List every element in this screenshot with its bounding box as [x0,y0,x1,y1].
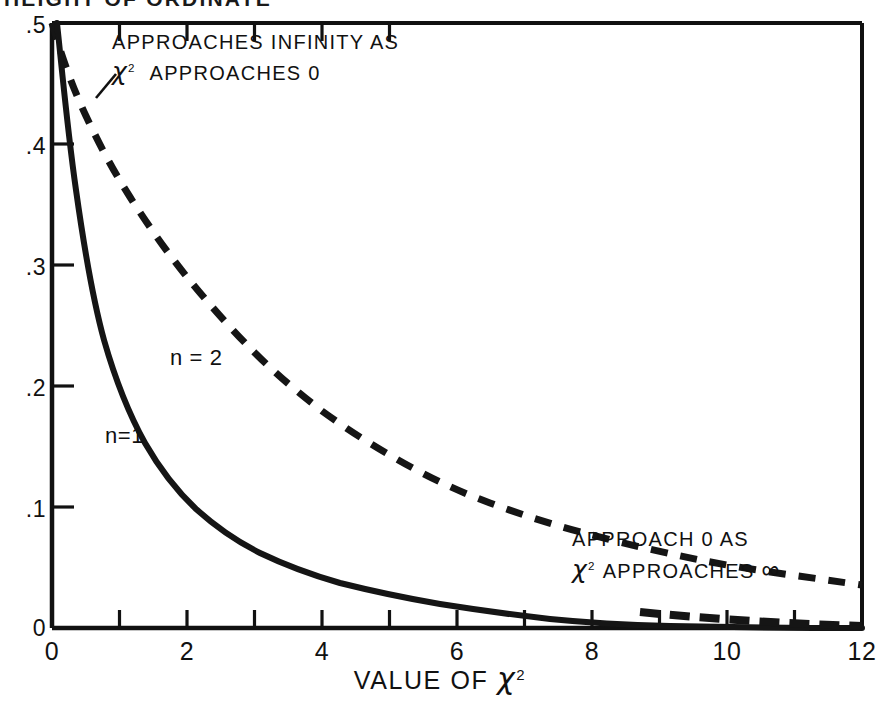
chi-exponent: 2 [128,61,136,74]
chi-exponent: 2 [516,666,526,683]
infinity-symbol: ∞ [762,555,781,583]
annotation-right-line2-text: APPROACHES [603,560,755,582]
annotation-left-line2-text: APPROACHES 0 [150,62,321,84]
curve-label-n1: n=1 [105,423,144,449]
chi-square-density-figure: HEIGHT OF ORDINATE [0,0,880,705]
curve-label-n2: n = 2 [170,345,223,371]
curve-n2 [52,23,862,585]
chi-symbol: χ [112,57,128,86]
annotation-left: APPROACHES INFINITY AS χ2 APPROACHES 0 [112,30,399,88]
annotation-right: APPROACH 0 AS χ2 APPROACHES ∞ [572,527,781,586]
x-axis-label: VALUE OF χ2 [0,661,880,696]
x-axis-label-text: VALUE OF [354,666,489,694]
plot-svg [0,0,880,705]
annotation-right-line2: χ2 APPROACHES ∞ [572,553,781,586]
y-tick-label-4: .1 [2,496,46,523]
y-tick-label-3: .2 [2,375,46,402]
y-tick-label-1: .4 [2,133,46,160]
y-tick-label-0: .5 [2,12,46,39]
y-axis-ticks [52,144,74,507]
chi-symbol: χ [497,661,516,696]
y-tick-label-2: .3 [2,254,46,281]
annotation-left-line2: χ2 APPROACHES 0 [112,56,399,88]
annotation-left-line1: APPROACHES INFINITY AS [112,30,399,56]
annotation-right-line1: APPROACH 0 AS [572,527,781,553]
chi-exponent: 2 [588,559,596,572]
chi-symbol: χ [572,555,588,584]
